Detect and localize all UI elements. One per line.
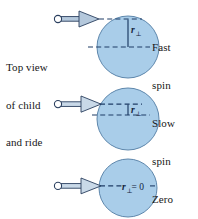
label-fast-spin-line-1: Fast xyxy=(152,41,171,54)
label-slow-spin-line-1: Slow xyxy=(152,117,175,130)
pivot-dot-zero xyxy=(54,182,61,189)
label-zero-spin: Zero spin xyxy=(152,168,173,219)
physics-diagram: r ⊥ r ⊥ r ⊥ = 0 Top view of child and ri… xyxy=(0,0,198,219)
radius-equation-zero: = 0 xyxy=(132,182,145,192)
arrow-shaft-zero xyxy=(61,184,83,189)
left-caption: Top view of child and ride xyxy=(6,36,80,174)
disk-slow xyxy=(97,88,159,150)
radius-label-fast: r xyxy=(131,25,135,35)
label-zero-spin-line-1: Zero xyxy=(152,193,173,206)
left-caption-line-3: and ride xyxy=(6,136,80,149)
radius-subscript-fast: ⊥ xyxy=(135,30,141,37)
left-caption-line-2: of child xyxy=(6,99,80,112)
label-fast-spin-line-2: spin xyxy=(152,79,171,92)
arrow-shaft-fast xyxy=(61,17,81,22)
pivot-dot-fast xyxy=(54,15,61,22)
left-caption-line-1: Top view xyxy=(6,61,80,74)
radius-subscript-slow: ⊥ xyxy=(135,110,141,117)
radius-label-zero: r xyxy=(122,182,126,192)
label-slow-spin-line-2: spin xyxy=(152,155,175,168)
radius-label-slow: r xyxy=(131,105,135,115)
